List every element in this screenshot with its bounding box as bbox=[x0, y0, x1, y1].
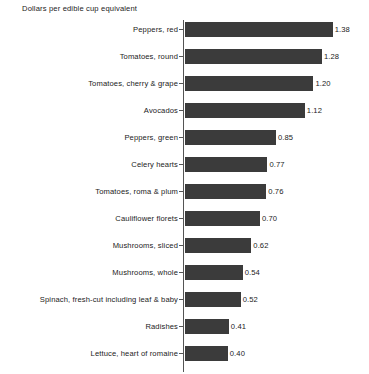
bar[interactable] bbox=[185, 265, 243, 280]
bar-row[interactable]: Cauliflower florets0.70 bbox=[0, 211, 369, 238]
bar-row[interactable]: Avocados1.12 bbox=[0, 103, 369, 130]
bar[interactable] bbox=[185, 157, 267, 172]
bar-row[interactable]: Radishes0.41 bbox=[0, 319, 369, 346]
bar[interactable] bbox=[185, 238, 251, 253]
bar-value-label: 0.52 bbox=[243, 292, 258, 307]
bar-value-label: 0.54 bbox=[245, 265, 260, 280]
bar[interactable] bbox=[185, 76, 313, 91]
bar-category-label: Tomatoes, cherry & grape bbox=[88, 76, 178, 91]
bar-value-label: 0.62 bbox=[253, 238, 268, 253]
bar-value-label: 0.76 bbox=[268, 184, 283, 199]
bar-row[interactable]: Lettuce, heart of romaine0.40 bbox=[0, 346, 369, 373]
axis-tick-mark bbox=[179, 299, 184, 300]
bar-row[interactable]: Mushrooms, whole0.54 bbox=[0, 265, 369, 292]
bar-value-label: 0.41 bbox=[231, 319, 246, 334]
bar-row[interactable]: Tomatoes, roma & plum0.76 bbox=[0, 184, 369, 211]
bar[interactable] bbox=[185, 49, 322, 64]
axis-tick-mark bbox=[179, 272, 184, 273]
bar-value-label: 0.70 bbox=[262, 211, 277, 226]
bar[interactable] bbox=[185, 130, 276, 145]
axis-tick-mark bbox=[179, 326, 184, 327]
axis-tick-mark bbox=[179, 164, 184, 165]
bar-category-label: Mushrooms, whole bbox=[112, 265, 178, 280]
bar-row[interactable]: Peppers, green0.85 bbox=[0, 130, 369, 157]
axis-tick-mark bbox=[179, 245, 184, 246]
bar-value-label: 1.20 bbox=[315, 76, 330, 91]
bar-value-label: 1.28 bbox=[324, 49, 339, 64]
bar[interactable] bbox=[185, 22, 333, 37]
bar-row[interactable]: Peppers, red1.38 bbox=[0, 22, 369, 49]
axis-tick-mark bbox=[179, 191, 184, 192]
bar-value-label: 0.77 bbox=[269, 157, 284, 172]
axis-tick-mark bbox=[179, 218, 184, 219]
bar[interactable] bbox=[185, 211, 260, 226]
bar-value-label: 1.38 bbox=[335, 22, 350, 37]
axis-tick-mark bbox=[179, 83, 184, 84]
bar-row[interactable]: Tomatoes, cherry & grape1.20 bbox=[0, 76, 369, 103]
bar-row[interactable]: Mushrooms, sliced0.62 bbox=[0, 238, 369, 265]
bar-row[interactable]: Celery hearts0.77 bbox=[0, 157, 369, 184]
axis-tick-mark bbox=[179, 110, 184, 111]
bar-category-label: Celery hearts bbox=[131, 157, 178, 172]
bar-category-label: Peppers, red bbox=[133, 22, 178, 37]
bar[interactable] bbox=[185, 346, 228, 361]
bar-value-label: 0.40 bbox=[230, 346, 245, 361]
bar-category-label: Radishes bbox=[145, 319, 178, 334]
bar-category-label: Tomatoes, round bbox=[120, 49, 178, 64]
bar-category-label: Mushrooms, sliced bbox=[113, 238, 178, 253]
bar[interactable] bbox=[185, 319, 229, 334]
chart-title: Dollars per edible cup equivalent bbox=[22, 4, 137, 14]
bar-category-label: Peppers, green bbox=[124, 130, 178, 145]
axis-tick-mark bbox=[179, 56, 184, 57]
bar-category-label: Cauliflower florets bbox=[115, 211, 178, 226]
bar-value-label: 0.85 bbox=[278, 130, 293, 145]
bar-category-label: Lettuce, heart of romaine bbox=[91, 346, 178, 361]
axis-tick-mark bbox=[179, 137, 184, 138]
bar-row[interactable]: Tomatoes, round1.28 bbox=[0, 49, 369, 76]
bar-category-label: Avocados bbox=[144, 103, 178, 118]
axis-tick-mark bbox=[179, 29, 184, 30]
bar[interactable] bbox=[185, 103, 305, 118]
bar-chart: Dollars per edible cup equivalent Pepper… bbox=[0, 0, 369, 374]
bar-row[interactable]: Spinach, fresh-cut including leaf & baby… bbox=[0, 292, 369, 319]
bar-category-label: Spinach, fresh-cut including leaf & baby bbox=[40, 292, 178, 307]
plot-area: Peppers, red1.38Tomatoes, round1.28Tomat… bbox=[0, 18, 369, 374]
bar-category-label: Tomatoes, roma & plum bbox=[95, 184, 178, 199]
bar-value-label: 1.12 bbox=[307, 103, 322, 118]
bar[interactable] bbox=[185, 184, 266, 199]
axis-tick-mark bbox=[179, 353, 184, 354]
bar[interactable] bbox=[185, 292, 241, 307]
